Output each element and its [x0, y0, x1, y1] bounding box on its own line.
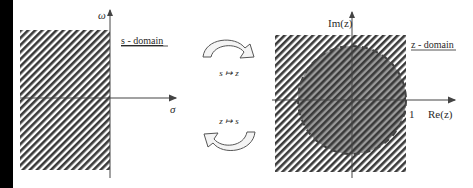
sigma-label: σ [170, 103, 176, 115]
inverse-mapping: z ↦ s [204, 116, 255, 151]
forward-mapping: s ↦ z [203, 40, 254, 78]
unit-marker-label: 1 [409, 108, 415, 120]
forward-mapping-label: s ↦ z [219, 68, 239, 78]
curved-arrow-right-icon [203, 40, 254, 58]
omega-label: ω [98, 9, 106, 21]
im-z-label: Im(z) [328, 17, 353, 30]
inverse-mapping-label: z ↦ s [218, 116, 239, 126]
s-domain-title: s - domain [121, 35, 163, 46]
s-domain-plot: ω σ s - domain [20, 9, 176, 178]
s-domain-stable-region [20, 30, 110, 170]
re-z-label: Re(z) [428, 108, 453, 121]
left-edge-bar [0, 0, 13, 188]
s-to-z-mapping-diagram: ω σ s - domain s ↦ z z ↦ s Im(z) z - dom… [0, 0, 473, 188]
curved-arrow-left-icon [204, 132, 255, 151]
z-domain-plot: Im(z) z - domain 1 Re(z) [272, 12, 456, 178]
z-domain-title: z - domain [411, 39, 454, 50]
